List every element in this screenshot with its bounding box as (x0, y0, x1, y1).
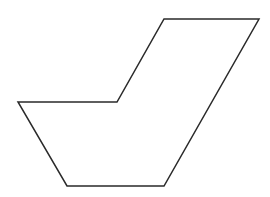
diagram-canvas (0, 0, 270, 197)
hexagon-outline-shape (18, 19, 259, 186)
